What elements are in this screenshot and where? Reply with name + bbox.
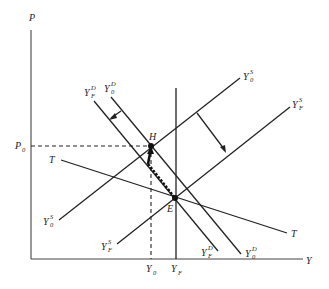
p0-label: P 0 [14, 140, 26, 153]
y0-label: Y 0 [146, 263, 157, 276]
yfs-label-upper: Y S F [292, 96, 304, 111]
svg-text:Y: Y [43, 216, 50, 227]
diagram-canvas: P Y P 0 Y 0 Y F Y S 0 Y S 0 Y S F Y S F [0, 0, 329, 289]
output-axis-label: Y [306, 255, 313, 266]
svg-text:D: D [207, 244, 213, 251]
svg-text:Y: Y [84, 87, 91, 98]
svg-text:Y: Y [146, 263, 153, 274]
svg-text:D: D [251, 245, 257, 252]
svg-text:S: S [108, 238, 112, 245]
svg-text:0: 0 [250, 76, 254, 83]
y0s-label-lower: Y S 0 [43, 213, 54, 228]
t-label-left: T [49, 154, 56, 165]
y0s-label-upper: Y S 0 [243, 68, 254, 83]
svg-text:0: 0 [22, 146, 26, 153]
svg-text:F: F [90, 92, 96, 99]
svg-text:D: D [110, 80, 116, 87]
supply-shift-arrow [197, 113, 226, 153]
svg-text:S: S [299, 96, 303, 103]
svg-text:0: 0 [111, 88, 115, 95]
yfd-label-lower: Y D F [201, 244, 213, 259]
svg-text:0: 0 [153, 269, 157, 276]
yf-label: Y F [171, 263, 183, 276]
yfd-label-upper: Y D F [84, 84, 96, 99]
y0d-label-lower: Y D 0 [245, 245, 257, 260]
svg-text:Y: Y [101, 241, 108, 252]
point-e [172, 195, 178, 201]
svg-text:Y: Y [201, 247, 208, 258]
svg-text:Y: Y [171, 263, 178, 274]
svg-text:S: S [250, 68, 254, 75]
y0d-label-upper: Y D 0 [104, 80, 116, 95]
svg-text:F: F [107, 246, 113, 253]
point-e-label: E [166, 203, 173, 214]
svg-text:F: F [177, 269, 183, 276]
svg-text:P: P [14, 140, 21, 151]
price-axis-label: P [28, 12, 35, 23]
svg-text:S: S [50, 213, 54, 220]
svg-text:F: F [298, 104, 304, 111]
t-label-right: T [291, 228, 298, 239]
point-h-label: H [148, 131, 157, 142]
svg-text:0: 0 [50, 221, 54, 228]
yfs-label-lower: Y S F [101, 238, 113, 253]
svg-text:Y: Y [243, 71, 250, 82]
svg-text:F: F [207, 252, 213, 259]
demand-shift-arrow [109, 111, 121, 120]
svg-text:Y: Y [245, 248, 252, 259]
svg-text:Y: Y [292, 99, 299, 110]
point-h [148, 143, 154, 149]
yfs-supply-curve [117, 107, 290, 244]
svg-text:Y: Y [104, 83, 111, 94]
svg-text:D: D [90, 84, 96, 91]
